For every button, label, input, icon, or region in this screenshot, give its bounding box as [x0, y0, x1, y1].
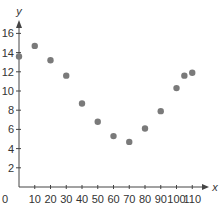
x-tick-label: 80 — [139, 193, 151, 205]
x-tick-label: 10 — [29, 193, 41, 205]
data-point — [16, 53, 22, 59]
x-tick-label: 30 — [60, 193, 72, 205]
x-tick-label: 40 — [76, 193, 88, 205]
x-axis-label: x — [211, 181, 218, 193]
data-point — [189, 70, 195, 76]
y-axis: y246810121416 — [2, 5, 24, 187]
x-axis-arrow-icon — [202, 184, 209, 190]
data-point — [63, 72, 69, 78]
x-tick-label: 60 — [107, 193, 119, 205]
y-axis-label: y — [15, 5, 23, 17]
x-tick-label: 90 — [155, 193, 167, 205]
data-point — [142, 125, 148, 131]
data-point — [181, 72, 187, 78]
x-tick-label: 20 — [44, 193, 56, 205]
scatter-chart: y246810121416 x0102030405060708090100110 — [0, 0, 221, 209]
data-point — [32, 43, 38, 49]
data-points — [16, 43, 196, 145]
y-tick-label: 16 — [2, 27, 14, 39]
x-tick-label: 70 — [123, 193, 135, 205]
x-tick-label: 110 — [183, 193, 201, 205]
data-point — [95, 119, 101, 125]
y-tick-label: 6 — [8, 123, 14, 135]
x-tick-label: 50 — [92, 193, 104, 205]
data-point — [110, 133, 116, 139]
y-tick-label: 2 — [8, 162, 14, 174]
y-tick-label: 4 — [8, 143, 14, 155]
x-tick-label: 0 — [2, 193, 8, 205]
x-axis: x0102030405060708090100110 — [2, 181, 218, 205]
data-point — [47, 57, 53, 63]
y-tick-label: 12 — [2, 66, 14, 78]
data-point — [126, 139, 132, 145]
y-tick-label: 14 — [2, 47, 14, 59]
data-point — [173, 85, 179, 91]
y-axis-arrow-icon — [16, 20, 22, 28]
y-tick-label: 8 — [8, 104, 14, 116]
data-point — [79, 100, 85, 106]
y-tick-label: 10 — [2, 85, 14, 97]
data-point — [158, 108, 164, 114]
